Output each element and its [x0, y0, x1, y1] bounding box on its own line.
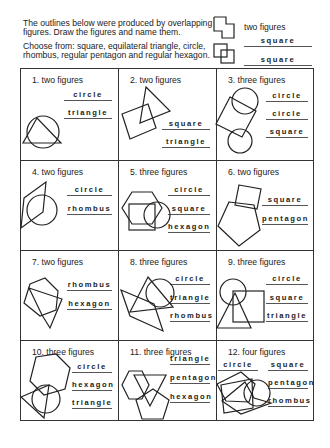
- problem-cell-1: 1. two figures circle triangle: [20, 68, 118, 160]
- triangle-pentagon-hexagon-figure-icon: [118, 340, 216, 421]
- problem-cell-8: 8. three figures circle triangle rhombus: [118, 250, 216, 340]
- problem-cell-5: 5. three figures circle square hexagon: [118, 160, 216, 250]
- circle-square-triangle-figure-icon: [216, 250, 314, 340]
- problem-cell-12: 12. four figures circle square pentagon …: [216, 340, 314, 421]
- circle-square-pentagon-rhombus-figure-icon: [216, 340, 314, 421]
- instructions-paragraph-1: The outlines below were produced by over…: [23, 19, 212, 37]
- circles-square-figure-icon: [216, 68, 314, 160]
- problem-cell-6: 6. two figures square pentagon: [216, 160, 314, 250]
- problem-cell-2: 2. two figures square triangle: [118, 68, 216, 160]
- example-answer: square: [244, 55, 312, 66]
- instruction-line: rhombus, regular pentagon and regular he…: [23, 51, 210, 60]
- problem-cell-11: 11. three figures triangle pentagon hexa…: [118, 340, 216, 421]
- problem-cell-10: 10. three figures circle hexagon triangl…: [20, 340, 118, 421]
- problem-cell-3: 3. three figures circle circle square: [216, 68, 314, 160]
- circle-triangle-figure-icon: [20, 68, 118, 160]
- example-outline-icon: [213, 16, 237, 66]
- rhombus-hexagon-figure-icon: [20, 250, 118, 340]
- problem-cell-4: 4. two figures circle rhombus: [20, 160, 118, 250]
- circle-triangle-rhombus-figure-icon: [118, 250, 216, 340]
- instruction-line: figures. Draw the figures and name them.: [23, 28, 212, 37]
- circle-rhombus-figure-icon: [20, 160, 118, 250]
- square-triangle-figure-icon: [118, 68, 216, 160]
- example-answer: square: [244, 36, 312, 47]
- square-pentagon-figure-icon: [216, 160, 314, 250]
- instructions-paragraph-2: Choose from: square, equilateral triangl…: [23, 42, 210, 60]
- problem-cell-9: 9. three figures circle square triangle: [216, 250, 314, 340]
- example-label: two figures: [244, 22, 286, 32]
- circle-square-hexagon-figure-icon: [118, 160, 216, 250]
- problem-cell-7: 7. two figures rhombus hexagon: [20, 250, 118, 340]
- circle-hexagon-triangle-figure-icon: [20, 340, 118, 421]
